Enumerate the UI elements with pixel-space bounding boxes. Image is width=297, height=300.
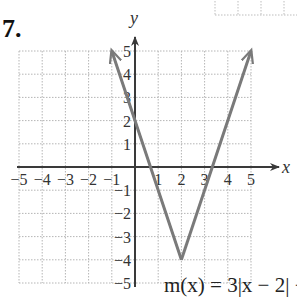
x-tick-label: 5 (247, 171, 255, 188)
curve-right-branch (181, 51, 251, 260)
x-tick-label: −3 (57, 171, 74, 188)
x-tick-label: −2 (80, 171, 97, 188)
y-tick-label: −2 (114, 205, 131, 222)
coordinate-plane: −5−4−3−2−11234554321−1−2−3−4−5 x y m(x) … (0, 0, 297, 300)
x-tick-label: 4 (224, 171, 232, 188)
y-tick-label: −3 (114, 229, 131, 246)
y-tick-label: −1 (114, 182, 131, 199)
x-tick-label: −4 (34, 171, 51, 188)
y-tick-label: −4 (114, 252, 131, 269)
y-tick-label: 4 (123, 66, 131, 83)
y-axis-label: y (128, 8, 138, 28)
function-label: m(x) = 3|x − 2| − 4 (164, 273, 297, 297)
y-tick-label: −5 (114, 275, 131, 292)
y-tick-label: 2 (123, 113, 131, 130)
y-tick-label: 5 (123, 43, 131, 60)
x-tick-label: −5 (10, 171, 27, 188)
y-tick-label: 1 (123, 136, 131, 153)
x-axis-label: x (281, 157, 290, 177)
x-tick-label: 2 (177, 171, 185, 188)
